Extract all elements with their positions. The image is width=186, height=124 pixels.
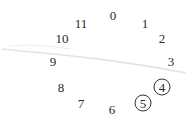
scan-smudge-line xyxy=(0,0,186,124)
pitch-class-6: 6 xyxy=(109,103,116,116)
pitch-class-7: 7 xyxy=(78,97,85,110)
pitch-class-4-circled: 4 xyxy=(154,79,171,96)
pitch-class-10: 10 xyxy=(56,32,69,45)
pitch-class-8: 8 xyxy=(58,81,65,94)
pitch-class-5-circled: 5 xyxy=(135,95,152,112)
pitch-class-circle: 0 1 2 3 4 5 6 7 8 9 10 11 xyxy=(0,0,186,124)
pitch-class-11: 11 xyxy=(75,17,88,30)
pitch-class-2: 2 xyxy=(159,32,166,45)
pitch-class-1: 1 xyxy=(142,17,149,30)
pitch-class-0: 0 xyxy=(110,9,117,22)
pitch-class-9: 9 xyxy=(50,55,57,68)
pitch-class-3: 3 xyxy=(168,55,175,68)
